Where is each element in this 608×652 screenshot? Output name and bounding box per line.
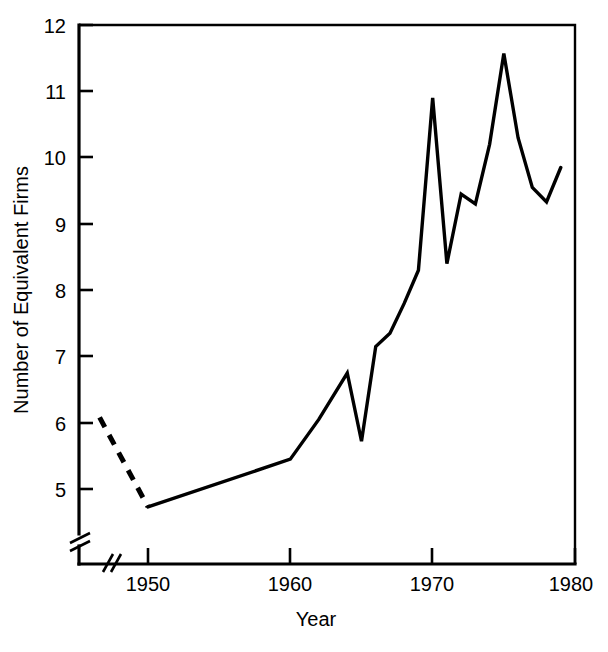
y-tick-label-12: 12 xyxy=(44,15,66,37)
y-tick-label-9: 9 xyxy=(55,214,66,236)
y-axis-ticks xyxy=(79,25,93,489)
x-tick-label-1960: 1960 xyxy=(268,573,313,595)
data-line-solid-segment xyxy=(148,54,561,507)
y-tick-label-8: 8 xyxy=(55,280,66,302)
y-tick-label-5: 5 xyxy=(55,479,66,501)
data-line-dashed-segment xyxy=(100,417,148,506)
x-tick-label-1970: 1970 xyxy=(410,573,455,595)
chart-figure: 12 11 10 9 8 7 6 5 1950 1960 1970 1980 Y… xyxy=(0,0,608,652)
x-tick-label-1980: 1980 xyxy=(549,573,594,595)
x-axis-title: Year xyxy=(296,608,337,630)
plot-frame-top-right xyxy=(79,25,575,564)
y-tick-label-6: 6 xyxy=(55,413,66,435)
y-tick-label-10: 10 xyxy=(44,147,66,169)
x-tick-label-1950: 1950 xyxy=(126,573,171,595)
x-axis-ticks xyxy=(148,548,575,564)
y-tick-label-7: 7 xyxy=(55,346,66,368)
y-axis-title: Number of Equivalent Firms xyxy=(10,166,32,414)
line-chart: 12 11 10 9 8 7 6 5 1950 1960 1970 1980 Y… xyxy=(0,0,608,652)
y-tick-label-11: 11 xyxy=(45,81,66,103)
